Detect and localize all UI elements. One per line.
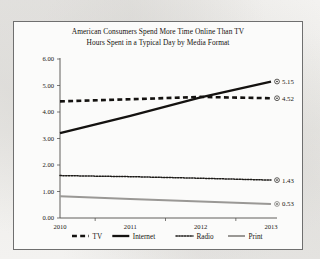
y-tick-label: 2.00 [42,161,54,168]
legend-label: Internet [133,233,155,241]
x-tick-label: 2013 [264,223,278,230]
series-end-value-labels: 4.525.151.430.53 [282,78,294,207]
end-value-label-radio: 1.43 [282,177,294,184]
legend-item-internet[interactable]: Internet [112,233,155,241]
y-tick-label: 5.00 [42,82,54,89]
plot-area: 0.001.002.003.004.005.006.00 20102011201… [14,22,304,251]
end-value-label-print: 0.53 [282,200,294,207]
series-end-markers [275,79,280,206]
legend-item-print[interactable]: Print [228,233,262,241]
legend-label: Print [249,233,263,241]
legend-item-radio[interactable]: Radio [176,233,214,241]
y-axis-tick-labels: 0.001.002.003.004.005.006.00 [42,55,54,221]
legend-item-tv[interactable]: TV [72,233,103,241]
end-value-label-tv: 4.52 [282,95,294,102]
end-marker-dot [276,179,278,181]
y-tick-label: 6.00 [42,55,54,62]
end-marker-dot [276,81,278,83]
legend-label: TV [93,233,103,241]
series-line-print [60,196,271,204]
y-tick-label: 4.00 [42,108,54,115]
line-chart-svg: 0.001.002.003.004.005.006.00 20102011201… [14,22,304,251]
chart-legend: TVInternetRadioPrint [72,233,262,241]
y-tick-label: 0.00 [42,214,54,221]
y-tick-label: 3.00 [42,135,54,142]
x-axis-tick-labels: 2010201120122013 [53,223,278,230]
legend-label: Radio [197,233,215,241]
x-tick-label: 2011 [124,223,137,230]
end-marker-dot [276,203,278,205]
end-value-label-internet: 5.15 [282,78,294,85]
chart-card: American Consumers Spend More Time Onlin… [13,21,303,250]
x-tick-label: 2010 [53,223,67,230]
series-line-internet [60,82,271,134]
series-line-radio [60,176,271,181]
series-line-tv [60,97,271,102]
end-marker-dot [276,97,278,99]
series-lines [60,82,271,204]
x-tick-label: 2012 [194,223,207,230]
y-tick-label: 1.00 [42,188,54,195]
